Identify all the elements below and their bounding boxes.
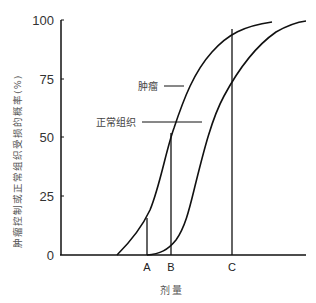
y-tick-label-50: 50	[40, 130, 54, 145]
x-marker-c: C	[228, 261, 236, 273]
dose-response-chart: 100 75 50 25 0 肿瘤控制或正常组织受损的概率(%) 肿瘤 正常组织…	[0, 0, 316, 303]
y-tick-label-100: 100	[32, 13, 54, 28]
normal-tissue-label: 正常组织	[96, 116, 136, 128]
x-marker-b: B	[167, 261, 174, 273]
y-tick-label-0: 0	[47, 248, 54, 263]
x-axis-title: 剂量	[160, 284, 184, 296]
x-marker-a: A	[143, 261, 151, 273]
y-axis-title: 肿瘤控制或正常组织受损的概率(%)	[12, 75, 23, 248]
tumor-label: 肿瘤	[138, 80, 158, 92]
y-tick-label-75: 75	[40, 72, 54, 87]
y-tick-label-25: 25	[40, 189, 54, 204]
